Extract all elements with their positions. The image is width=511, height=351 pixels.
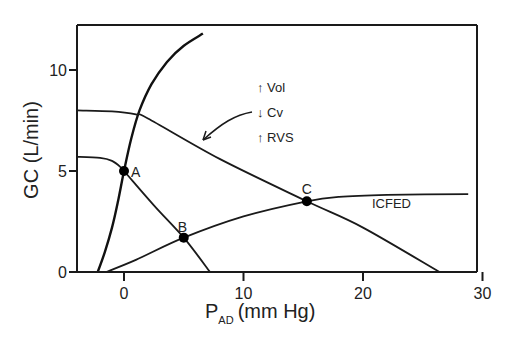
curves-group — [77, 34, 468, 272]
series-ICFED — [106, 194, 468, 272]
change-rvs: ↑ RVS — [257, 130, 294, 145]
x-tick-label: 30 — [474, 285, 492, 302]
plot-frame — [77, 25, 477, 272]
point-label-C: C — [302, 181, 312, 197]
point-A — [119, 166, 129, 176]
x-tick-label: 0 — [120, 285, 129, 302]
x-axis-label: PAD(mm Hg) — [205, 300, 315, 326]
point-C — [302, 196, 312, 206]
x-tick-label: 20 — [354, 285, 372, 302]
change-vol: ↑ Vol — [257, 80, 285, 95]
x-axis-label-main: P — [205, 300, 218, 322]
shift-arrow — [203, 112, 252, 140]
chart: 01020300510 ABC GC (L/min) PAD(mm Hg) IC… — [0, 0, 511, 351]
points-group: ABC — [119, 164, 312, 243]
icfed-label: ICFED — [372, 196, 411, 211]
point-label-B: B — [178, 219, 187, 235]
y-axis-label: GC (L/min) — [20, 101, 42, 199]
series-venous-return-normal — [77, 157, 210, 272]
y-tick-label: 10 — [49, 62, 67, 79]
change-cv: ↓ Cv — [257, 105, 284, 120]
x-axis-label-sub: AD — [218, 314, 233, 326]
x-axis-label-unit: (mm Hg) — [238, 300, 316, 322]
point-label-A: A — [131, 164, 141, 180]
y-tick-label: 0 — [58, 264, 67, 281]
changes-annotation: ↑ Vol ↓ Cv ↑ RVS — [257, 80, 294, 145]
ticks-group: 01020300510 — [49, 62, 491, 302]
y-tick-label: 5 — [58, 163, 67, 180]
